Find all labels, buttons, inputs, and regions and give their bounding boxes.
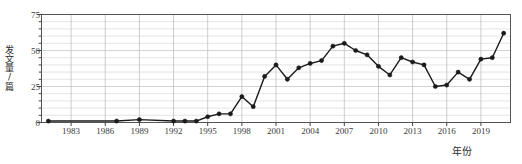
line-chart: 发文量/篇 0255075 19831986198919921995199820… xyxy=(0,0,522,164)
data-point xyxy=(251,105,255,109)
data-point xyxy=(183,119,187,123)
data-point xyxy=(137,118,141,122)
data-point xyxy=(46,119,50,123)
x-tick-label: 1998 xyxy=(233,126,251,136)
data-point xyxy=(467,77,471,81)
data-point xyxy=(319,58,323,62)
x-tick-label: 2016 xyxy=(438,126,456,136)
axis-frame xyxy=(37,15,511,127)
data-point xyxy=(194,119,198,123)
x-tick-label: 2004 xyxy=(301,126,319,136)
data-point xyxy=(331,44,335,48)
data-point xyxy=(206,115,210,119)
x-tick-label: 1995 xyxy=(199,126,217,136)
data-point xyxy=(433,84,437,88)
x-tick-label: 1992 xyxy=(165,126,183,136)
x-axis-title: 年份 xyxy=(452,143,472,158)
data-point xyxy=(502,31,506,35)
x-tick-label: 1983 xyxy=(62,126,80,136)
data-point xyxy=(411,60,415,64)
data-point xyxy=(399,56,403,60)
data-point xyxy=(456,70,460,74)
data-point xyxy=(263,74,267,78)
gridlines xyxy=(42,15,511,123)
plot-area xyxy=(0,0,522,164)
data-point xyxy=(376,64,380,68)
x-tick-label: 1989 xyxy=(130,126,148,136)
data-point xyxy=(115,119,119,123)
data-point xyxy=(228,112,232,116)
data-point xyxy=(285,77,289,81)
x-tick-label: 2001 xyxy=(267,126,285,136)
data-point xyxy=(171,119,175,123)
data-point xyxy=(217,112,221,116)
data-point xyxy=(274,63,278,67)
data-point xyxy=(490,56,494,60)
data-point xyxy=(354,48,358,52)
data-point xyxy=(445,83,449,87)
data-point xyxy=(240,94,244,98)
data-point xyxy=(365,53,369,57)
data-point xyxy=(422,63,426,67)
data-point xyxy=(342,41,346,45)
x-tick-label: 2019 xyxy=(472,126,490,136)
x-tick-label: 2010 xyxy=(369,126,387,136)
data-point xyxy=(297,66,301,70)
data-point xyxy=(388,73,392,77)
x-tick-label: 1986 xyxy=(96,126,114,136)
x-tick-label: 2013 xyxy=(404,126,422,136)
data-point xyxy=(308,61,312,65)
data-point xyxy=(479,57,483,61)
x-tick-label: 2007 xyxy=(335,126,353,136)
